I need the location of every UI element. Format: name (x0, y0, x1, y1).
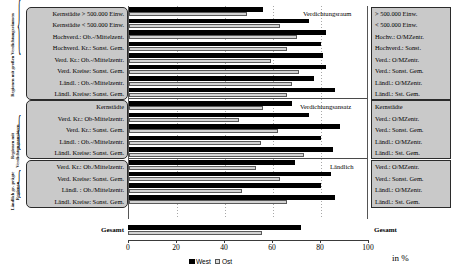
right-label-box-group-3: Verd.: O/MZentr. Verd.: Sonst. Gem. Länd… (371, 160, 451, 208)
bar-ost (129, 106, 263, 110)
bar-west (129, 136, 321, 141)
group-tag-verdichtungsraum: Verdichtungsraum (303, 10, 351, 17)
chart-root: Regionen mit großen Verdichtungsräumen {… (0, 0, 453, 274)
bar-ost (129, 93, 287, 97)
row-label: Ländl. Kreise: Sonst. Gem. (27, 88, 127, 100)
row-label: Verd. Kr.: Ob-Mittelzentr. (27, 113, 127, 125)
side-caption-group-1: Regionen mit großen Verdichtungsräumen (10, 12, 15, 98)
row-right-label: Hochv.: O/MZentr. (372, 31, 450, 43)
plot-area (128, 6, 368, 219)
gesamt-right-label: Gesamt (374, 226, 397, 234)
bar-ost (129, 141, 261, 145)
gesamt-label: Gesamt (60, 226, 124, 234)
bar-ost (129, 118, 239, 122)
legend-label-ost: Ost (222, 258, 232, 265)
group-tag-verdichtungsansatz: Verdichtungsansatz (300, 103, 351, 110)
bar-row (129, 112, 367, 124)
bar-ost (129, 12, 247, 16)
left-label-box-group-1: Kernstädte > 500.000 Einw. Kernstädte < … (26, 7, 128, 100)
left-label-box-group-2: Kernstädte Verd. Kr.: Ob-Mittelzentr. Ve… (26, 100, 128, 159)
row-label: Kernstädte > 500.000 Einw. (27, 8, 127, 20)
axis-tick-label: 100 (362, 243, 373, 252)
bar-ost (129, 47, 287, 51)
row-right-label: Ländl.: O/MZentr. (372, 184, 450, 196)
row-label: Ländl. : Ob.-/Mittelzentr. (27, 77, 127, 89)
gesamt-bars (128, 225, 368, 239)
group-separator (129, 98, 367, 99)
bar-west (129, 53, 323, 58)
row-right-label: Ländl.: O/MZentr. (372, 136, 450, 148)
bar-west (129, 113, 309, 118)
row-right-label: Ländl.: Sst. Gem. (372, 147, 450, 159)
brace-group-2: { (17, 107, 21, 153)
bar-row (129, 64, 367, 76)
bar-west (129, 160, 295, 165)
row-right-label: Hochverd.: Sonst. (372, 42, 450, 54)
bar-ost (129, 200, 287, 204)
legend-swatch-ost-icon (215, 259, 221, 265)
bar-ost (129, 189, 242, 193)
bar-row (129, 76, 367, 88)
bar-west-total (128, 225, 301, 230)
group-separator (129, 158, 367, 159)
brace-group-1: { (17, 0, 21, 61)
brace-group-3: { (17, 164, 21, 201)
bar-row (129, 53, 367, 65)
row-label: Kernstädte < 500.000 Einw. (27, 19, 127, 31)
bar-ost (129, 82, 292, 86)
bar-west (129, 42, 321, 47)
legend: West Ost (189, 258, 232, 265)
row-label: Ländl. Kreise: Sonst. Gem. (27, 147, 127, 159)
bar-ost (129, 59, 271, 63)
row-right-label: < 500.000 Einw. (372, 19, 450, 31)
group-tag-laendlich: Ländlich (330, 163, 353, 170)
bar-ost (129, 24, 280, 28)
row-right-label: Verd.: O/MZentr. (372, 113, 450, 125)
axis-tick-label: 80 (316, 243, 324, 252)
row-right-label: Verd.: O/MZentr. (372, 161, 450, 173)
bar-west (129, 88, 335, 93)
bar-ost (129, 129, 278, 133)
bar-west (129, 30, 326, 35)
bar-ost (129, 70, 299, 74)
bar-ost (129, 35, 297, 39)
row-label: Verd. Kr.: Ob./Mittelzentr. (27, 161, 127, 173)
axis-tick-label: 40 (220, 243, 228, 252)
row-label: Verd. Kr.: Sonst. Gem. (27, 124, 127, 136)
bar-row (129, 195, 367, 207)
bar-row (129, 172, 367, 184)
row-right-label: > 500.000 Einw. (372, 8, 450, 20)
bar-ost-total (128, 231, 262, 235)
left-label-box-group-3: Verd. Kr.: Ob./Mittelzentr. Verd. Kreise… (26, 160, 128, 208)
row-label: Verd. Kr.: Ob.-/Mittelzentr. (27, 54, 127, 66)
row-label: Ländl. : Ob.-/Mittelzentr. (27, 136, 127, 148)
row-right-label: Ländl.: Sst. Gem. (372, 88, 450, 100)
bar-row (129, 147, 367, 159)
row-label: Verd. Kreise: Sonst. Gem. (27, 173, 127, 185)
bar-west (129, 195, 335, 200)
x-axis-line (128, 240, 368, 241)
bar-row (129, 30, 367, 42)
bar-ost (129, 177, 280, 181)
bar-west (129, 7, 263, 12)
row-label: Ländl. Kreise: Sonst. Gem. (27, 196, 127, 208)
bar-west (129, 19, 309, 24)
legend-label-west: West (196, 258, 211, 265)
bar-west (129, 65, 326, 70)
bar-row (129, 87, 367, 99)
right-label-box-group-1: > 500.000 Einw. < 500.000 Einw. Hochv.: … (371, 7, 451, 100)
row-right-label: Verd.: Sonst. Gem. (372, 65, 450, 77)
bar-ost (129, 166, 256, 170)
bar-west (129, 172, 331, 177)
row-right-label: Verd.: Sonst. Gem. (372, 124, 450, 136)
bar-row (129, 183, 367, 195)
row-right-label: Ländl.: Sst. Gem. (372, 196, 450, 208)
bar-row (129, 18, 367, 30)
row-right-label: Verd.: O/MZentr. (372, 54, 450, 66)
bar-west (129, 183, 321, 188)
row-label: Hochverd.: Ob.-/Mittelzent. (27, 31, 127, 43)
legend-swatch-west-icon (189, 259, 195, 265)
bar-west (129, 101, 292, 106)
axis-tick-label: 20 (172, 243, 180, 252)
bar-west (129, 76, 314, 81)
